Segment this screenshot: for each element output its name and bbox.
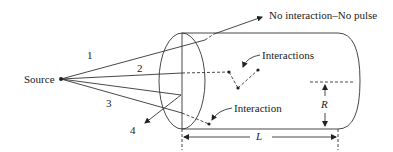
ray-4-label: 4 [130, 125, 136, 136]
ray-1-label: 1 [87, 50, 93, 61]
cylinder-back-face [338, 33, 360, 129]
radius-dimension [310, 82, 355, 126]
cylinder-detector [159, 33, 360, 129]
length-label: L [256, 131, 262, 142]
ray-4 [61, 79, 181, 123]
radius-label: R [321, 99, 328, 110]
interactions-pointer [243, 55, 260, 67]
ray-3 [61, 79, 209, 124]
interaction-pointer [212, 108, 232, 120]
ray-2-label: 2 [137, 63, 143, 74]
ray-1 [61, 17, 262, 79]
source-label: Source [24, 74, 55, 85]
interactions-label: Interactions [262, 50, 314, 61]
ray-3-label: 3 [106, 98, 112, 109]
no-interaction-label: No interaction–No pulse [269, 10, 377, 21]
detector-diagram [0, 0, 393, 152]
interaction-label: Interaction [234, 103, 282, 114]
source-point [59, 77, 63, 81]
